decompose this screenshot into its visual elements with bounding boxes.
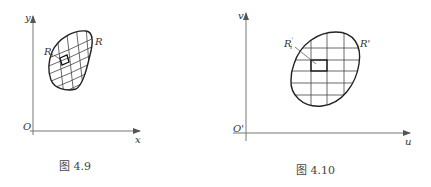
caption-fig-4-9: 图 4.9	[59, 160, 91, 173]
origin-prime-label: O'	[233, 123, 244, 134]
v-axis-label: v	[238, 10, 244, 21]
y-axis-label: y	[24, 12, 31, 23]
subregion-label: Ri	[43, 46, 54, 58]
region-r-grid	[44, 26, 98, 100]
subregion-prime-label: R'i	[283, 36, 294, 50]
diagram-canvas: y x O R Ri 图 4.9 v u O' R' R'i 图 4.10	[0, 0, 431, 187]
region-prime-label: R'	[359, 38, 370, 49]
origin-label: O	[23, 121, 31, 132]
caption-fig-4-10: 图 4.10	[296, 164, 335, 177]
figure-4-9: y x O R Ri 图 4.9	[23, 12, 141, 173]
u-axis-label: u	[405, 136, 411, 147]
x-axis-label: x	[135, 134, 141, 145]
region-label: R	[94, 36, 103, 47]
figure-4-10: v u O' R' R'i 图 4.10	[233, 10, 411, 177]
